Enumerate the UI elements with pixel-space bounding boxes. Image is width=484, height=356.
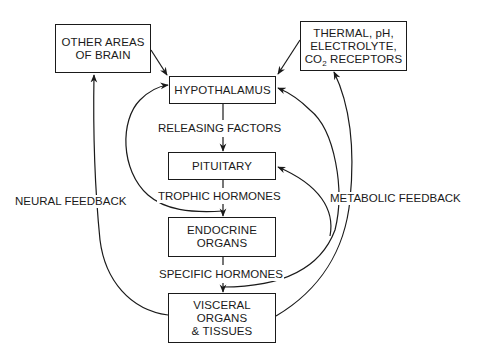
node-visceral-line-3: & TISSUES — [192, 325, 253, 338]
node-endocrine-line-2: ORGANS — [197, 237, 247, 250]
node-endocrine-line-1: ENDOCRINE — [187, 224, 257, 237]
node-other-areas-of-brain: OTHER AREAS OF BRAIN — [55, 24, 151, 73]
node-receptors: THERMAL, pH, ELECTROLYTE, CO2 RECEPTORS — [300, 21, 407, 71]
node-pituitary: PITUITARY — [168, 152, 276, 180]
node-visceral-line-1: VISCERAL — [193, 299, 251, 312]
node-hypothalamus-label: HYPOTHALAMUS — [174, 84, 270, 97]
label-trophic-hormones: TROPHIC HORMONES — [157, 190, 282, 203]
node-other-brain-line-1: OTHER AREAS — [62, 36, 145, 49]
node-hypothalamus: HYPOTHALAMUS — [169, 76, 276, 104]
receptors-suffix: RECEPTORS — [327, 53, 403, 65]
arrow-other-brain-to-hypothalamus — [151, 50, 167, 75]
node-visceral-line-2: ORGANS — [197, 312, 247, 325]
node-endocrine-organs: ENDOCRINE ORGANS — [168, 217, 276, 257]
node-pituitary-label: PITUITARY — [192, 160, 252, 173]
label-neural-feedback: NEURAL FEEDBACK — [14, 195, 127, 208]
label-specific-hormones: SPECIFIC HORMONES — [158, 268, 284, 281]
arrow-visceral-to-pituitary — [278, 167, 331, 236]
endocrine-feedback-diagram: OTHER AREAS OF BRAIN THERMAL, pH, ELECTR… — [0, 0, 484, 356]
label-releasing-factors: RELEASING FACTORS — [157, 122, 282, 135]
node-visceral-organs: VISCERAL ORGANS & TISSUES — [168, 293, 276, 343]
label-metabolic-feedback: METABOLIC FEEDBACK — [329, 192, 462, 205]
node-other-brain-line-2: OF BRAIN — [75, 49, 130, 62]
node-receptors-line-2: ELECTROLYTE, — [310, 40, 397, 53]
node-receptors-line-3: CO2 RECEPTORS — [305, 53, 403, 66]
arrow-visceral-to-hypothalamus — [223, 88, 339, 287]
arrow-receptors-to-hypothalamus — [278, 40, 300, 74]
node-receptors-line-1: THERMAL, pH, — [313, 27, 393, 40]
co2-prefix: CO — [305, 53, 322, 65]
